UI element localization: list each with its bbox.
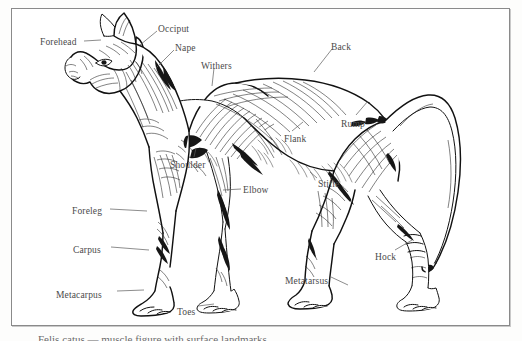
label-carpus: Carpus [73, 246, 101, 256]
leader-flank [292, 122, 303, 131]
label-metatarsus: Metatarsus [285, 277, 328, 287]
label-occiput: Occiput [158, 25, 189, 35]
label-stifle: Stifle [318, 180, 339, 190]
label-nape: Nape [175, 44, 196, 54]
label-shoulder: Shoulder [170, 161, 206, 171]
label-toes: Toes [177, 308, 195, 318]
leader-forehead [84, 40, 101, 41]
leader-nape [156, 50, 174, 68]
label-metacarpus: Metacarpus [56, 291, 102, 301]
label-elbow: Elbow [243, 186, 269, 196]
label-hock: Hock [375, 253, 396, 263]
leader-elbow [223, 189, 241, 190]
label-flank: Flank [284, 135, 306, 145]
label-back: Back [331, 43, 351, 53]
leader-rump [356, 101, 368, 115]
leader-metacarpus [117, 290, 144, 291]
leader-back [314, 49, 332, 72]
label-foreleg: Foreleg [72, 207, 102, 217]
leader-hock [395, 240, 412, 250]
leader-metatarsus [331, 277, 348, 285]
label-forehead: Forehead [40, 38, 77, 48]
leader-stifle [310, 172, 317, 178]
leader-foreleg [110, 209, 147, 211]
label-rump: Rump [341, 120, 365, 130]
label-withers: Withers [201, 62, 232, 72]
leader-toes [198, 304, 214, 306]
figure-caption: Felis catus — muscle figure with surface… [38, 333, 267, 341]
leader-shoulder [194, 148, 196, 157]
leader-carpus [111, 247, 149, 250]
figure-page: ForeheadOcciputNapeWithersBackRumpFlankS… [0, 0, 522, 341]
leader-occiput [140, 31, 157, 45]
